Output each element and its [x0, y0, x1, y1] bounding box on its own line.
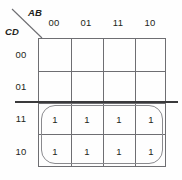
kmap-cell-r11-c01[interactable]: 1: [71, 103, 103, 135]
kmap-cell-r11-c11[interactable]: 1: [103, 103, 135, 135]
kmap-row-header-0: 00: [8, 49, 34, 60]
kmap-column-header-1: 01: [70, 17, 102, 28]
horizontal-rule-artifact: [15, 101, 178, 103]
kmap-cell-r11-c00[interactable]: 1: [39, 103, 71, 135]
kmap-cell-r01-c11[interactable]: [103, 71, 135, 103]
kmap-cell-r01-c01[interactable]: [71, 71, 103, 103]
kmap-column-header-0: 00: [38, 17, 70, 28]
kmap-column-header-3: 10: [134, 17, 166, 28]
kmap-cell-r10-c10[interactable]: 1: [135, 135, 167, 167]
kmap-cell-r00-c11[interactable]: [103, 39, 135, 71]
kmap-cell-r00-c00[interactable]: [39, 39, 71, 71]
kmap-row-header-1: 01: [8, 81, 34, 92]
kmap-cell-r10-c00[interactable]: 1: [39, 135, 71, 167]
kmap-cell-r10-c11[interactable]: 1: [103, 135, 135, 167]
kmap-column-header-2: 11: [102, 17, 134, 28]
kmap-cell-r10-c01[interactable]: 1: [71, 135, 103, 167]
kmap-left-variable-label: CD: [5, 26, 19, 37]
kmap-cell-r11-c10[interactable]: 1: [135, 103, 167, 135]
kmap-cell-r00-c01[interactable]: [71, 39, 103, 71]
karnaugh-map-figure: AB CD 00 01 11 10 00 01 11 10 1 1 1 1 1 …: [0, 0, 182, 180]
kmap-cell-r01-c00[interactable]: [39, 71, 71, 103]
kmap-cell-r00-c10[interactable]: [135, 39, 167, 71]
kmap-row-header-2: 11: [8, 113, 34, 124]
kmap-cell-r01-c10[interactable]: [135, 71, 167, 103]
kmap-row-header-3: 10: [8, 146, 34, 157]
